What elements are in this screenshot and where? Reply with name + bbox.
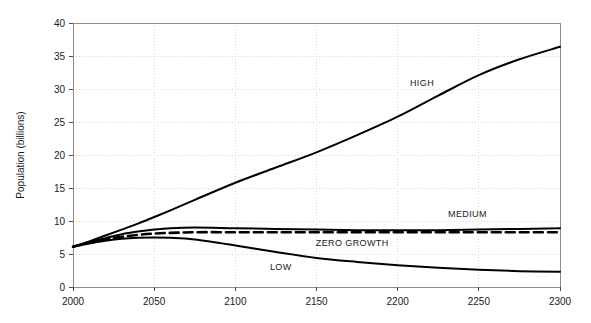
y-tick-label: 10 xyxy=(54,216,66,227)
x-axis-ticks xyxy=(73,287,560,291)
series-label-zero-growth: ZERO GROWTH xyxy=(316,238,389,248)
population-projection-chart: 0510152025303540 20002050210021502200225… xyxy=(0,0,591,323)
series-labels: HIGHMEDIUMZERO GROWTHLOW xyxy=(270,78,487,271)
x-tick-label: 2100 xyxy=(224,296,247,307)
y-axis-title: Population (billions) xyxy=(15,111,26,198)
chart-canvas: 0510152025303540 20002050210021502200225… xyxy=(0,0,591,323)
y-tick-label: 25 xyxy=(54,117,66,128)
y-axis-tick-labels: 0510152025303540 xyxy=(54,18,66,293)
series-label-high: HIGH xyxy=(410,78,434,88)
x-tick-label: 2300 xyxy=(549,296,572,307)
x-tick-label: 2050 xyxy=(143,296,166,307)
y-tick-label: 35 xyxy=(54,51,66,62)
series-label-medium: MEDIUM xyxy=(448,209,487,219)
y-tick-label: 30 xyxy=(54,84,66,95)
y-tick-label: 5 xyxy=(59,249,65,260)
y-tick-label: 15 xyxy=(54,183,66,194)
y-tick-label: 0 xyxy=(59,282,65,293)
x-tick-label: 2000 xyxy=(62,296,85,307)
x-tick-label: 2150 xyxy=(305,296,328,307)
y-tick-label: 20 xyxy=(54,150,66,161)
x-tick-label: 2250 xyxy=(468,296,491,307)
series-label-low: LOW xyxy=(270,262,292,272)
y-tick-label: 40 xyxy=(54,18,66,29)
x-tick-label: 2200 xyxy=(387,296,410,307)
x-axis-tick-labels: 2000205021002150220022502300 xyxy=(62,296,572,307)
